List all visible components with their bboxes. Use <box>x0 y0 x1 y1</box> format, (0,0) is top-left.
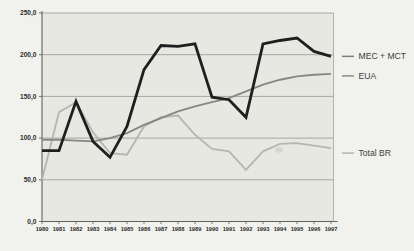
x-axis-label: 1982 <box>70 226 83 232</box>
legend-label: Total BR <box>359 148 391 158</box>
x-axis-label: 1992 <box>240 226 253 232</box>
x-axis-label: 1988 <box>172 226 185 232</box>
x-axis-label: 1990 <box>206 226 219 232</box>
x-axis-label: 1997 <box>325 226 338 232</box>
x-axis-label: 1983 <box>87 226 100 232</box>
x-axis-label: 1996 <box>308 226 321 232</box>
legend-label: MEC + MCT <box>359 51 407 61</box>
x-axis-label: 1994 <box>274 226 287 232</box>
x-axis-label: 1986 <box>138 226 151 232</box>
legend-label: EUA <box>359 71 377 81</box>
x-axis-label: 1987 <box>155 226 168 232</box>
x-axis-label: 1984 <box>104 226 117 232</box>
x-axis-label: 1981 <box>53 226 66 232</box>
line-chart: 0,050,0100,0150,0200,0250,01980198119821… <box>0 0 414 251</box>
y-axis-label: 0,0 <box>27 218 36 226</box>
x-axis-label: 1993 <box>257 226 270 232</box>
x-axis-label: 1991 <box>223 226 236 232</box>
y-axis-label: 50,0 <box>24 176 37 184</box>
y-axis-label: 150,0 <box>20 93 37 101</box>
x-axis-label: 1995 <box>291 226 304 232</box>
y-axis-label: 250,0 <box>20 9 37 17</box>
scanned-chart-page: 0,050,0100,0150,0200,0250,01980198119821… <box>0 0 414 251</box>
x-axis-label: 1980 <box>36 226 49 232</box>
y-axis-label: 200,0 <box>20 51 37 59</box>
y-axis-label: 100,0 <box>20 134 37 142</box>
x-axis-label: 1985 <box>121 226 134 232</box>
x-axis-label: 1989 <box>189 226 202 232</box>
scan-smudge <box>275 147 283 153</box>
